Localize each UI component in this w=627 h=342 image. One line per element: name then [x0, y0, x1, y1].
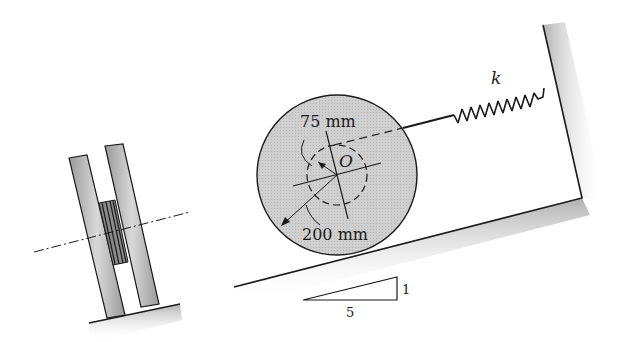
side-view-ground-shade [89, 304, 182, 342]
diagram-canvas: 75 mm O 200 mm k 1 5 [0, 0, 627, 342]
wheel-radius-label: 200 mm [302, 225, 368, 244]
slope-run-label: 5 [346, 305, 354, 320]
slope-rise-label: 1 [402, 282, 410, 297]
cable [403, 115, 454, 128]
spring [454, 88, 544, 123]
spring-coil [454, 88, 544, 123]
wall-shade [543, 22, 605, 200]
center-label: O [339, 151, 353, 171]
spring-constant-label: k [491, 68, 501, 88]
hub-radius-label: 75 mm [300, 112, 356, 131]
side-view [34, 144, 190, 342]
